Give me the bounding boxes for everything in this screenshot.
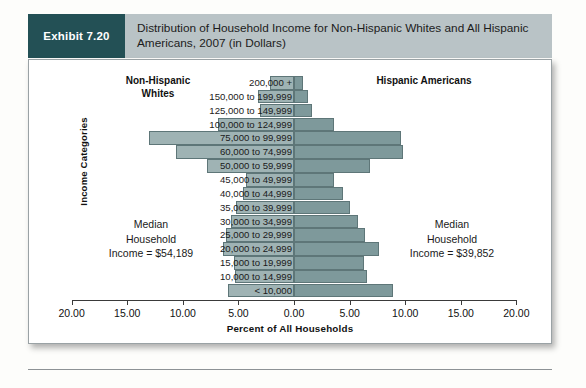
bar-hispanic-americans	[294, 284, 393, 298]
exhibit-title-area: Distribution of Household Income for Non…	[125, 14, 552, 58]
x-axis-tick	[183, 300, 184, 305]
income-category-label: 45,000 to 49,999	[84, 172, 292, 187]
x-axis-tick-label: 10.00	[160, 307, 206, 319]
income-category-label: 100,000 to 124,999	[84, 117, 292, 132]
income-category-label: 30,000 to 34,999	[84, 214, 292, 229]
bar-row: 35,000 to 39,999	[29, 201, 551, 215]
bar-hispanic-americans	[294, 145, 403, 159]
income-category-label: 25,000 to 29,999	[84, 227, 292, 242]
bar-hispanic-americans	[294, 159, 370, 173]
x-axis-tick-label: 20.00	[493, 307, 539, 319]
income-category-label: 75,000 to 99,999	[84, 130, 292, 145]
bar-hispanic-americans	[294, 131, 401, 145]
bar-row: 50,000 to 59,999	[29, 159, 551, 173]
bar-row: 125,000 to 149,999	[29, 104, 551, 118]
income-category-label: 10,000 to 14,999	[84, 269, 292, 284]
bar-rows-container: 200,000 +150,000 to 199,999125,000 to 14…	[29, 60, 551, 300]
bar-row: 15,000 to 19,999	[29, 256, 551, 270]
bar-hispanic-americans	[294, 201, 350, 215]
x-axis-tick	[350, 300, 351, 305]
x-axis-tick-label: 10.00	[382, 307, 428, 319]
bar-row: 200,000 +	[29, 76, 551, 90]
exhibit-number-badge: Exhibit 7.20	[28, 14, 125, 58]
bar-hispanic-americans	[294, 215, 358, 229]
exhibit-header: Exhibit 7.20 Distribution of Household I…	[28, 14, 552, 58]
income-category-label: 150,000 to 199,999	[84, 89, 292, 104]
exhibit-title-text: Distribution of Household Income for Non…	[137, 21, 542, 52]
bar-row: 60,000 to 74,999	[29, 145, 551, 159]
exhibit-page: Exhibit 7.20 Distribution of Household I…	[0, 0, 586, 388]
x-axis-tick	[461, 300, 462, 305]
x-axis-tick	[238, 300, 239, 305]
bar-row: 100,000 to 124,999	[29, 118, 551, 132]
income-category-label: 200,000 +	[84, 75, 292, 90]
x-axis-tick-label: 15.00	[104, 307, 150, 319]
bar-row: 10,000 to 14,999	[29, 270, 551, 284]
income-category-label: 15,000 to 19,999	[84, 255, 292, 270]
x-axis-tick	[516, 300, 517, 305]
income-category-label: 40,000 to 44,999	[84, 186, 292, 201]
income-category-label: 50,000 to 59,999	[84, 158, 292, 173]
bar-row: 30,000 to 34,999	[29, 215, 551, 229]
bar-hispanic-americans	[294, 270, 367, 284]
bar-row: 45,000 to 49,999	[29, 173, 551, 187]
bar-hispanic-americans	[294, 118, 334, 132]
x-axis-tick-label: 0.00	[271, 307, 317, 319]
x-axis-tick	[72, 300, 73, 305]
bar-row: 20,000 to 24,999	[29, 242, 551, 256]
bar-hispanic-americans	[294, 90, 308, 104]
bar-hispanic-americans	[294, 242, 379, 256]
x-axis-tick-label: 15.00	[438, 307, 484, 319]
chart-plot-area: Income Categories Non-Hispanic Whites Hi…	[29, 60, 551, 343]
x-axis-tick-label: 5.00	[327, 307, 373, 319]
x-axis-title: Percent of All Households	[29, 323, 551, 334]
bar-hispanic-americans	[294, 104, 312, 118]
bar-hispanic-americans	[294, 187, 343, 201]
bar-hispanic-americans	[294, 228, 365, 242]
page-bottom-rule	[28, 369, 552, 370]
income-category-label: < 10,000	[84, 283, 292, 298]
bar-row: 40,000 to 44,999	[29, 187, 551, 201]
income-category-label: 35,000 to 39,999	[84, 200, 292, 215]
bar-hispanic-americans	[294, 76, 303, 90]
x-axis-tick-label: 20.00	[49, 307, 95, 319]
x-axis-tick-label: 5.00	[215, 307, 261, 319]
income-category-label: 60,000 to 74,999	[84, 144, 292, 159]
income-category-label: 125,000 to 149,999	[84, 103, 292, 118]
x-axis-tick	[127, 300, 128, 305]
bar-hispanic-americans	[294, 173, 334, 187]
exhibit-number-label: Exhibit 7.20	[43, 30, 109, 42]
bar-row: 150,000 to 199,999	[29, 90, 551, 104]
bar-row: 25,000 to 29,999	[29, 228, 551, 242]
income-category-label: 20,000 to 24,999	[84, 241, 292, 256]
x-axis-tick	[405, 300, 406, 305]
bar-row: 75,000 to 99,999	[29, 131, 551, 145]
chart-frame: Income Categories Non-Hispanic Whites Hi…	[28, 59, 552, 344]
bar-hispanic-americans	[294, 256, 364, 270]
x-axis-tick	[294, 300, 295, 305]
bar-row: < 10,000	[29, 284, 551, 298]
